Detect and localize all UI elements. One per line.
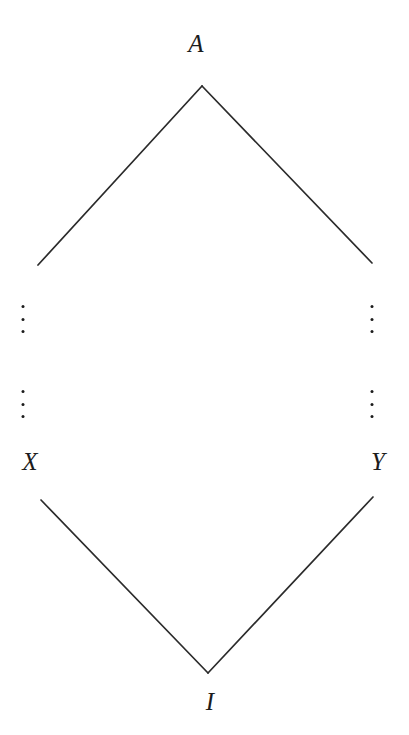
vertical-ellipsis-icon-left-upper xyxy=(22,305,25,333)
ellipsis-dot xyxy=(22,330,25,333)
lattice-diagram: A X Y I xyxy=(0,0,409,735)
edge-y-i xyxy=(208,497,373,673)
ellipsis-dot xyxy=(22,318,25,321)
ellipsis-dot xyxy=(22,415,25,418)
ellipsis-dot xyxy=(371,330,374,333)
edge-a-y xyxy=(202,86,372,263)
ellipsis-dot xyxy=(371,305,374,308)
ellipsis-dot xyxy=(371,318,374,321)
ellipsis-dot xyxy=(22,390,25,393)
node-label-x: X xyxy=(22,449,37,474)
node-label-i: I xyxy=(206,689,214,714)
edge-x-i xyxy=(41,500,208,673)
ellipsis-dot xyxy=(371,403,374,406)
edges-layer xyxy=(0,0,409,735)
ellipsis-dot xyxy=(22,403,25,406)
ellipsis-dot xyxy=(371,390,374,393)
ellipsis-dot xyxy=(22,305,25,308)
node-label-a: A xyxy=(188,31,203,56)
vertical-ellipsis-icon-right-upper xyxy=(371,305,374,333)
ellipsis-dot xyxy=(371,415,374,418)
edge-a-x xyxy=(38,86,202,265)
node-label-y: Y xyxy=(371,449,385,474)
vertical-ellipsis-icon-left-lower xyxy=(22,390,25,418)
vertical-ellipsis-icon-right-lower xyxy=(371,390,374,418)
